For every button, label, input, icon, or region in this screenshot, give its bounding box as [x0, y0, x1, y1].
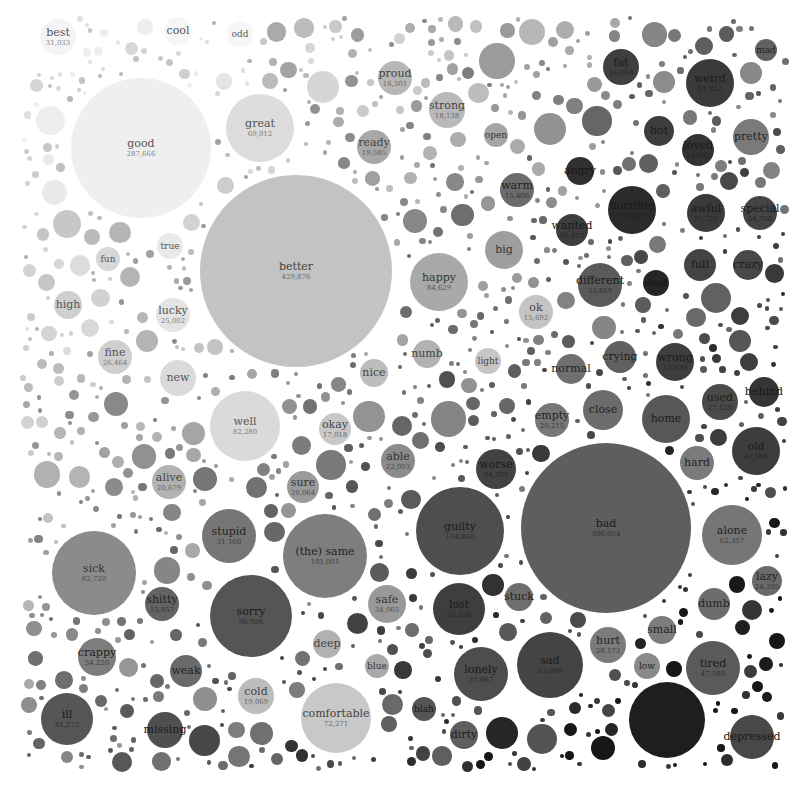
bubble-word: sorry [237, 606, 266, 618]
filler-dot [452, 696, 461, 705]
filler-dot [506, 515, 511, 520]
filler-dot [109, 222, 131, 244]
filler-dot [527, 724, 557, 754]
bubble-deep: deep [313, 630, 341, 658]
filler-dot [43, 513, 53, 523]
filler-dot [416, 746, 431, 761]
filler-dot [588, 239, 594, 245]
filler-dot [150, 674, 164, 688]
filler-dot [182, 422, 205, 445]
filler-dot [218, 761, 228, 771]
filler-dot [414, 162, 420, 168]
filler-dot [552, 248, 557, 253]
filler-dot [565, 751, 573, 759]
filler-dot [482, 574, 503, 595]
filler-dot [172, 339, 177, 344]
filler-dot [333, 117, 343, 127]
filler-dot [132, 444, 156, 468]
bubble-worse: worse34,737 [476, 449, 516, 489]
filler-dot [610, 18, 620, 28]
bubble-word: sad [540, 655, 559, 667]
bubble-count: 134,850 [446, 533, 475, 542]
filler-dot [511, 286, 515, 290]
filler-dot [542, 368, 546, 372]
bubble-horrible: horrible36,585 [608, 186, 656, 234]
bubble-word: able [386, 451, 410, 463]
filler-dot [435, 318, 440, 323]
filler-dot [137, 312, 148, 323]
bubble-behind: behind [749, 377, 779, 407]
filler-dot [348, 49, 357, 58]
filler-dot [508, 762, 512, 766]
filler-dot [336, 107, 344, 115]
filler-dot [342, 16, 347, 21]
bubble-word: strong [429, 100, 465, 112]
filler-dot [688, 49, 693, 54]
filler-dot [27, 753, 31, 757]
filler-dot [708, 111, 712, 115]
filler-dot [88, 28, 92, 32]
bubble-word: ill [62, 709, 73, 721]
filler-dot [104, 707, 108, 711]
filler-dot [176, 51, 181, 56]
filler-dot [519, 19, 545, 45]
filler-dot [27, 156, 32, 161]
filler-dot [186, 448, 201, 463]
filler-dot [462, 67, 474, 79]
filler-dot [409, 594, 417, 602]
bubble-word: home [651, 413, 682, 425]
filler-dot [646, 381, 651, 386]
filler-dot [566, 98, 582, 114]
bubble-word: wrong [657, 352, 692, 364]
filler-dot [634, 250, 648, 264]
filler-dot [534, 258, 540, 264]
filler-dot [36, 106, 65, 135]
filler-dot [353, 170, 357, 174]
filler-dot [351, 353, 356, 358]
filler-dot [229, 375, 234, 380]
filler-dot [468, 415, 479, 426]
filler-dot [28, 450, 34, 456]
bubble-guilty: guilty134,850 [416, 487, 504, 575]
bubble-low: low [634, 653, 660, 679]
filler-dot [34, 212, 39, 217]
filler-dot [94, 47, 104, 57]
filler-dot [699, 333, 711, 345]
bubble-count: 22,093 [386, 463, 411, 472]
filler-dot [117, 617, 125, 625]
filler-dot [437, 58, 441, 62]
filler-dot [476, 155, 480, 159]
bubble-count: 20,679 [157, 484, 182, 493]
filler-dot [428, 240, 432, 244]
filler-dot [719, 26, 735, 42]
bubble-word: shitty [146, 594, 177, 606]
bubble-blue: blue [365, 654, 389, 678]
bubble-lucky: lucky25,002 [156, 298, 190, 332]
bubble-hurt: hurt28,173 [590, 627, 626, 663]
filler-dot [28, 651, 43, 666]
filler-dot [69, 331, 74, 336]
filler-dot [499, 623, 517, 641]
filler-dot [435, 442, 444, 451]
filler-dot [307, 602, 311, 606]
filler-dot [56, 163, 64, 171]
filler-dot [374, 524, 378, 528]
filler-dot [688, 573, 692, 577]
filler-dot [101, 67, 105, 71]
filler-dot [742, 691, 749, 698]
filler-dot [166, 59, 173, 66]
filler-dot [683, 293, 689, 299]
filler-dot [757, 235, 761, 239]
filler-dot [546, 277, 551, 282]
filler-dot [586, 383, 591, 388]
filler-dot [165, 684, 170, 689]
filler-dot [66, 628, 79, 641]
filler-dot [521, 383, 527, 389]
filler-dot [673, 329, 683, 339]
filler-dot [361, 462, 370, 471]
filler-dot [396, 106, 404, 114]
filler-dot [607, 255, 611, 259]
filler-dot [520, 619, 525, 624]
bubble-count: 15,692 [524, 314, 549, 323]
filler-dot [484, 161, 488, 165]
